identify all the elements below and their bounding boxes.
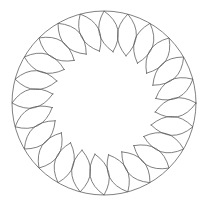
petal-ring-diagram xyxy=(0,0,208,205)
background xyxy=(0,0,208,205)
